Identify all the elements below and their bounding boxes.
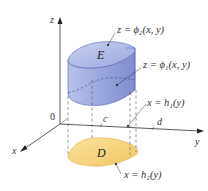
x-axis-label: x (12, 146, 16, 156)
region-d-label: D (97, 147, 106, 159)
y-axis (60, 124, 204, 134)
box-edge (60, 118, 68, 124)
y-tick-c (100, 124, 102, 127)
x-axis-arrow-icon (20, 145, 28, 152)
z-axis-arrow-icon (58, 17, 63, 24)
z-axis (58, 17, 63, 124)
z-axis-label: z (50, 15, 54, 25)
solid-e-label: E (97, 49, 104, 61)
y-axis-label: y (195, 137, 199, 147)
origin-label: 0 (50, 112, 55, 122)
bottom-surface-annotation: z = ϕ₁(x, y) (143, 60, 190, 71)
diagram-canvas (0, 0, 208, 191)
x-axis (20, 124, 60, 152)
y-tick-c-label: c (103, 114, 107, 124)
y-axis-arrow-icon (197, 129, 204, 134)
top-surface-annotation: z = ϕ₂(x, y) (117, 25, 164, 36)
front-curve-annotation: x = h₂(y) (124, 170, 162, 181)
back-curve-annotation: x = h₁(y) (147, 98, 185, 109)
y-tick-d-label: d (157, 117, 162, 127)
